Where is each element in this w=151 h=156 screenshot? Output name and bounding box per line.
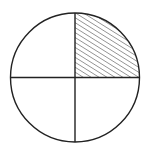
fraction-diagram (0, 0, 151, 156)
fraction-circle-svg (0, 0, 151, 156)
